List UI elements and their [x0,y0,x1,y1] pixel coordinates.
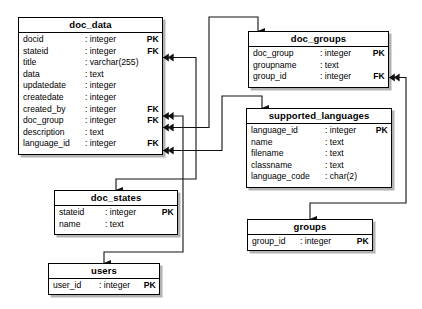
attribute-row: updatedate : integer [19,80,162,92]
attribute-key: PK [139,280,156,292]
attribute-name: classname [251,160,325,172]
attribute-row: groupname : text [249,60,388,72]
attribute-name: user_id [53,280,99,292]
entity-doc-groups[interactable]: doc_groups doc_group : integer PK groupn… [248,31,389,88]
entity-doc-states[interactable]: doc_states stateid : integer PK name : t… [54,190,178,235]
attribute-row: stateid : integer FK [19,46,162,58]
attribute-type: : integer [85,104,142,116]
attribute-type: : integer [320,48,368,60]
attribute-name: language_id [251,125,325,137]
attribute-type: : integer [85,138,142,150]
attribute-list-doc-data: docid : integer PK stateid : integer FK … [19,33,162,151]
attribute-row: description : text [19,127,162,139]
attribute-row: doc_group : integer PK [249,48,388,60]
attribute-type: : text [325,148,371,160]
attribute-name: title [23,57,85,69]
attribute-key: FK [142,138,159,150]
attribute-type: : text [325,137,371,149]
attribute-type: : integer [85,92,142,104]
attribute-type: : integer [85,46,142,58]
attribute-name: description [23,127,85,139]
attribute-type: : integer [105,207,157,219]
attribute-name: filename [251,148,325,160]
attribute-key: FK [142,104,159,116]
attribute-list-doc-states: stateid : integer PK name : text [55,206,177,231]
attribute-type: : text [320,60,368,72]
er-diagram-canvas: doc_data docid : integer PK stateid : in… [0,0,422,309]
attribute-key: FK [142,115,159,127]
attribute-row: user_id : integer PK [49,280,159,292]
attribute-name: language_id [23,138,85,150]
attribute-name: name [59,219,105,231]
attribute-list-doc-groups: doc_group : integer PK groupname : text … [249,47,388,84]
attribute-type: : integer [85,80,142,92]
attribute-key: FK [368,71,385,83]
attribute-type: : varchar(255) [85,57,142,69]
entity-title-doc-states: doc_states [55,191,177,206]
entity-groups[interactable]: groups group_id : integer PK [247,219,373,251]
attribute-row: group_id : integer PK [248,236,372,248]
attribute-row: title : varchar(255) [19,57,162,69]
attribute-name: stateid [59,207,105,219]
attribute-key: PK [142,34,159,46]
attribute-name: name [251,137,325,149]
attribute-type: : text [325,160,371,172]
attribute-key: PK [352,236,369,248]
attribute-type: : integer [99,280,139,292]
attribute-type: : text [85,127,142,139]
attribute-type: : integer [85,115,142,127]
attribute-type: : text [85,69,142,81]
entity-title-supported-languages: supported_languages [247,109,391,124]
attribute-name: createdate [23,92,85,104]
attribute-row: docid : integer PK [19,34,162,46]
attribute-name: doc_group [253,48,320,60]
attribute-row: classname : text [247,160,391,172]
attribute-name: stateid [23,46,85,58]
attribute-name: doc_group [23,115,85,127]
attribute-list-supported-languages: language_id : integer PK name : text fil… [247,124,391,184]
attribute-type: : integer [300,236,352,248]
attribute-type: : integer [325,125,371,137]
attribute-type: : char(2) [325,171,371,183]
entity-supported-languages[interactable]: supported_languages language_id : intege… [246,108,392,188]
entity-users[interactable]: users user_id : integer PK [48,263,160,295]
attribute-row: language_id : integer FK [19,138,162,150]
attribute-row: name : text [247,137,391,149]
attribute-row: filename : text [247,148,391,160]
attribute-key: PK [371,125,388,137]
attribute-name: groupname [253,60,320,72]
attribute-row: createdate : integer [19,92,162,104]
attribute-key: PK [157,207,174,219]
attribute-name: language_code [251,171,325,183]
entity-title-doc-data: doc_data [19,18,162,33]
attribute-list-groups: group_id : integer PK [248,235,372,249]
entity-title-users: users [49,264,159,279]
attribute-key: PK [368,48,385,60]
attribute-name: updatedate [23,80,85,92]
attribute-name: data [23,69,85,81]
attribute-row: language_id : integer PK [247,125,391,137]
attribute-type: : text [105,219,157,231]
attribute-row: group_id : integer FK [249,71,388,83]
attribute-key: FK [142,46,159,58]
attribute-type: : integer [320,71,368,83]
rel-docdata-docgroup-to-docgroups [163,17,258,128]
attribute-row: name : text [55,219,177,231]
attribute-row: doc_group : integer FK [19,115,162,127]
attribute-row: language_code : char(2) [247,171,391,183]
attribute-name: group_id [252,236,300,248]
entity-title-doc-groups: doc_groups [249,32,388,47]
attribute-name: docid [23,34,85,46]
attribute-name: group_id [253,71,320,83]
attribute-row: created_by : integer FK [19,104,162,116]
entity-title-groups: groups [248,220,372,235]
attribute-row: stateid : integer PK [55,207,177,219]
attribute-list-users: user_id : integer PK [49,279,159,293]
attribute-name: created_by [23,104,85,116]
attribute-row: data : text [19,69,162,81]
entity-doc-data[interactable]: doc_data docid : integer PK stateid : in… [18,17,163,155]
attribute-type: : integer [85,34,142,46]
